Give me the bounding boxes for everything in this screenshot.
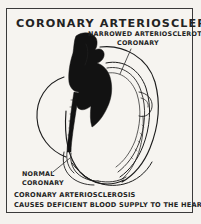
normal-coronary-label-line1: NORMAL	[22, 170, 55, 178]
heart-illustration: CORONARY ARTERIOSCLEROSIS	[0, 0, 201, 224]
diseased-branch-descending	[67, 92, 79, 152]
plate-title: CORONARY ARTERIOSCLEROSIS	[16, 17, 201, 30]
narrowed-coronary-label-line1: NARROWED ARTERIOSCLEROTIC	[88, 30, 201, 38]
normal-coronary-label-line2: CORONARY	[22, 179, 64, 187]
coronary-arteriosclerosis-plate: CORONARY ARTERIOSCLEROSIS	[0, 0, 201, 224]
caption-line-1: CORONARY ARTERIOSCLEROSIS	[14, 191, 136, 199]
coronary-marginal-branch	[122, 116, 143, 179]
coronary-bifurcation-loop	[139, 92, 152, 117]
caption-line-2: CAUSES DEFICIENT BLOOD SUPPLY TO THE HEA…	[14, 201, 201, 209]
normal-coronary-leader-line	[53, 158, 70, 172]
narrowed-coronary-label-line2: CORONARY	[117, 39, 159, 47]
right-coronary-mid	[107, 67, 145, 172]
heart-left-auricle-border	[37, 77, 66, 157]
right-vessel-texture	[131, 125, 144, 159]
right-coronary-inner	[108, 73, 140, 167]
